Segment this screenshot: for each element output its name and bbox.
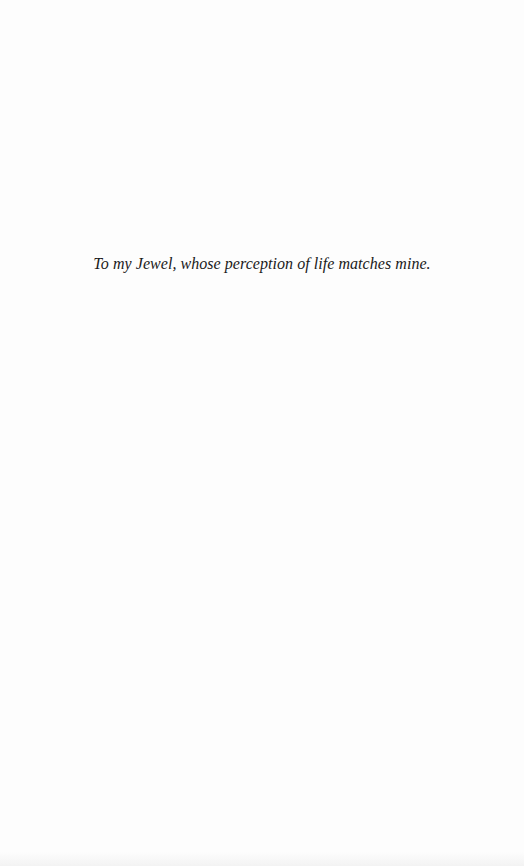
dedication-text: To my Jewel, whose perception of life ma… [0,254,524,274]
book-page: To my Jewel, whose perception of life ma… [0,0,524,866]
